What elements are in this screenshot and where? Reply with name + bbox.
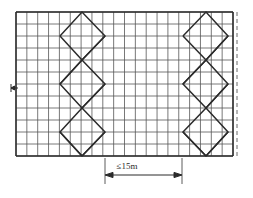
dimension-arrow-right [174, 172, 182, 177]
dimension-label: ≤15m [117, 161, 138, 171]
dimension-arrow-left [105, 172, 113, 177]
dimension-line [105, 172, 182, 177]
left-edge-tick-marker [11, 84, 18, 92]
